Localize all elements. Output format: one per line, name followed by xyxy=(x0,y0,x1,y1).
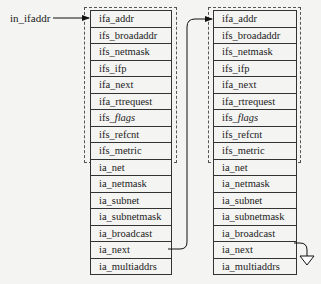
null-ground-icon xyxy=(300,256,314,265)
ia-next-null-link xyxy=(294,243,307,256)
pointer-arrows xyxy=(0,0,321,284)
ia-next-link-arrow xyxy=(168,19,212,249)
